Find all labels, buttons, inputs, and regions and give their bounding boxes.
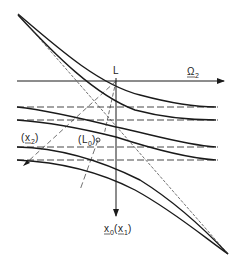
x0-symbol: x bbox=[104, 223, 109, 234]
label-omega2: Ω 2 bbox=[187, 66, 199, 79]
x1-close-paren: ) bbox=[128, 223, 131, 234]
upper-curve-1 bbox=[18, 14, 216, 107]
L0-close-paren: ) bbox=[92, 134, 95, 145]
omega-subscript: 2 bbox=[195, 72, 199, 79]
x1-symbol: x bbox=[118, 223, 123, 234]
L0-direction-line bbox=[80, 140, 98, 190]
hyperbola-diagram: L Ω 2 ( x 2 ) ( L 0 ) x 0 ( x 1 ) bbox=[0, 0, 234, 266]
diagonal-lines bbox=[18, 14, 228, 254]
label-L0: ( L 0 ) bbox=[78, 134, 95, 147]
label-x2: ( x 2 ) bbox=[21, 132, 38, 145]
diagonal-line-1 bbox=[18, 14, 228, 254]
x2-symbol: x bbox=[25, 132, 30, 143]
lower-curves bbox=[17, 147, 228, 254]
lower-curve-2 bbox=[17, 160, 228, 254]
dashed-asymptotes bbox=[17, 107, 218, 160]
x2-close-paren: ) bbox=[35, 132, 38, 143]
label-x0-x1: x 0 ( x 1 ) bbox=[104, 223, 131, 236]
omega-symbol: Ω bbox=[187, 66, 195, 77]
label-L: L bbox=[113, 65, 119, 76]
